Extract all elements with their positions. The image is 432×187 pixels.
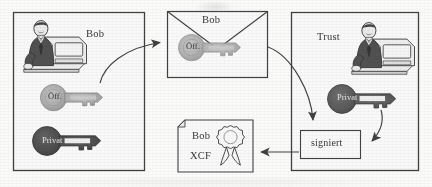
envelope-label: Bob	[202, 14, 220, 25]
signiert-label: signiert	[311, 137, 343, 148]
diagram-vector-layer	[0, 0, 432, 187]
certificate-type-label: XCF	[190, 150, 211, 161]
diagram-canvas: Bob Bob Trust signiert Bob XCF Öff. Priv…	[0, 0, 432, 187]
trust-box-label: Trust	[317, 31, 340, 42]
certificate-owner-label: Bob	[192, 130, 210, 141]
bob-box-label: Bob	[86, 28, 104, 39]
certificate	[178, 120, 253, 172]
